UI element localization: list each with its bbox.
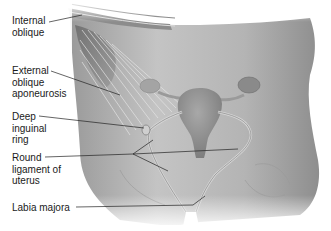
label-labia-majora: Labia majora xyxy=(12,202,70,214)
anatomy-figure: Internal oblique External oblique aponeu… xyxy=(0,0,331,231)
label-external-oblique-aponeurosis: External oblique aponeurosis xyxy=(12,65,66,100)
label-deep-inguinal-ring: Deep inguinal ring xyxy=(12,111,46,146)
deep-inguinal-ring-structure xyxy=(142,125,150,135)
label-internal-oblique: Internal oblique xyxy=(12,15,45,38)
label-round-ligament-of-uterus: Round ligament of uterus xyxy=(12,152,61,187)
pelvis-illustration xyxy=(0,0,331,231)
